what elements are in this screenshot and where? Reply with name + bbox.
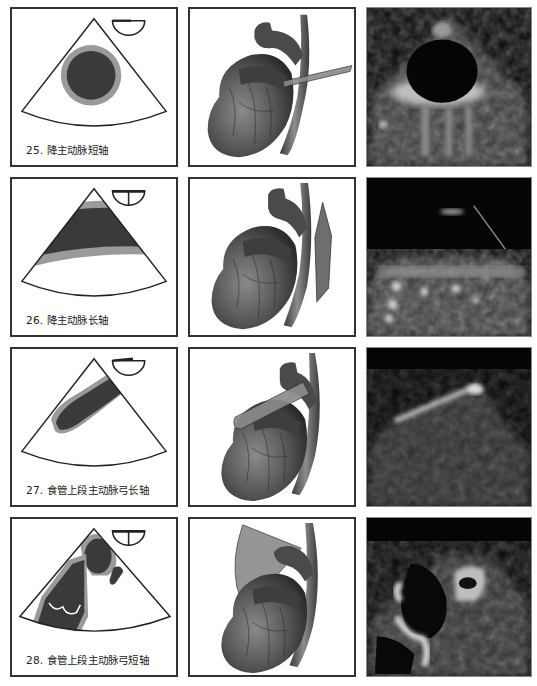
probe-orientation-split-icon	[113, 191, 145, 206]
probe-orientation-semicircle-icon	[113, 359, 145, 376]
heart-with-fan-scan-plane	[190, 519, 354, 675]
schematic-panel-27: 27. 食管上段主动脉弓长轴	[10, 347, 178, 507]
probe-orientation-semicircle-icon	[113, 21, 145, 36]
schematic-panel-25: 25. 降主动脉短轴	[10, 7, 178, 167]
anatomy-panel-25	[188, 7, 356, 167]
anatomy-panel-28	[188, 517, 356, 677]
echo-image-26	[366, 177, 532, 337]
view-caption-26: 26. 降主动脉长轴	[26, 312, 108, 327]
view-caption-25: 25. 降主动脉短轴	[26, 142, 108, 157]
anatomy-panel-27	[188, 347, 356, 507]
view-caption-28: 28. 食管上段主动脉弓短轴	[26, 652, 149, 667]
heart-with-horizontal-scan-plane	[190, 9, 354, 165]
descending-aorta-long-axis-echo	[367, 178, 531, 336]
upper-esophageal-aortic-arch-long-axis-echo	[367, 348, 531, 506]
heart-with-oblique-scan-plane	[190, 349, 354, 505]
schematic-panel-28: 28. 食管上段主动脉弓短轴	[10, 517, 178, 677]
echo-image-28	[366, 517, 532, 677]
echo-image-25	[366, 7, 532, 167]
probe-orientation-split-icon	[113, 531, 145, 546]
upper-esophageal-aortic-arch-short-axis-echo	[367, 518, 531, 676]
schematic-panel-26: 26. 降主动脉长轴	[10, 177, 178, 337]
view-caption-27: 27. 食管上段主动脉弓长轴	[26, 482, 149, 497]
descending-aorta-short-axis-echo	[367, 8, 531, 166]
heart-with-vertical-scan-plane	[190, 179, 354, 335]
echo-image-27	[366, 347, 532, 507]
anatomy-panel-26	[188, 177, 356, 337]
